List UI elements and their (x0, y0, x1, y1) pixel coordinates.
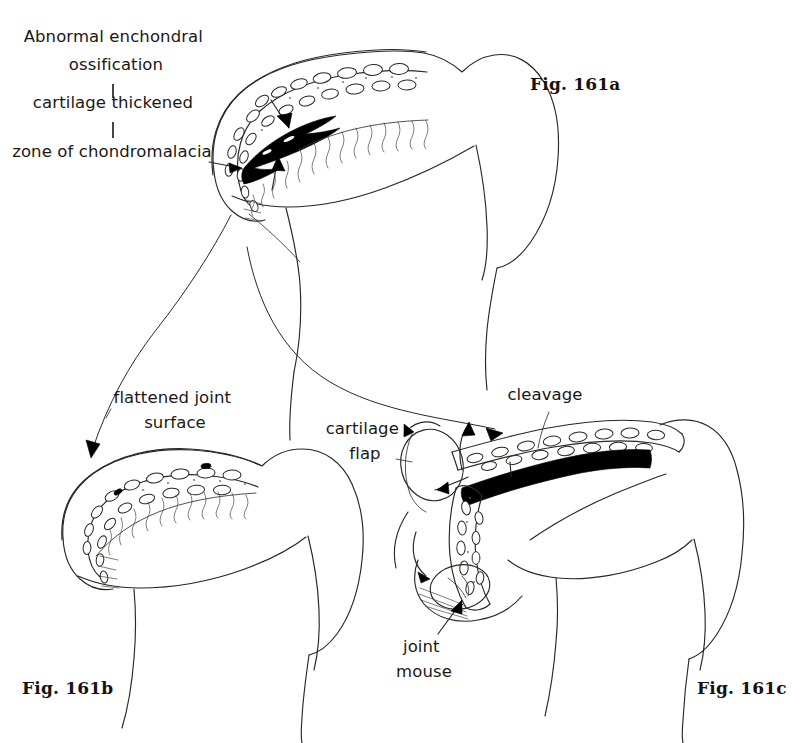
annotation-line: cleavage (507, 385, 582, 404)
illustration-canvas: Abnormal enchondral ossification cartila… (0, 0, 811, 743)
annotation-line: cartilage (326, 419, 399, 438)
annotation-line: surface (144, 413, 206, 432)
fig-caption-161a: Fig. 161a (530, 74, 621, 94)
annotation-line: flattened joint (114, 388, 232, 407)
figure-svg: Abnormal enchondral ossification cartila… (0, 0, 811, 743)
degenerate-lacuna-161b (201, 463, 211, 469)
fig-caption-161c: Fig. 161c (697, 678, 787, 698)
annotation-line: joint (402, 637, 440, 656)
annotation-line: cartilage thickened (33, 93, 193, 112)
annotation-line: Abnormal enchondral (24, 27, 203, 46)
annotation-line: flap (349, 444, 380, 463)
annotation-cleavage: cleavage (507, 385, 582, 404)
annotation-line: mouse (396, 662, 452, 681)
annotation-cartilage-thickened: cartilage thickened (33, 93, 193, 112)
fig-caption-161b: Fig. 161b (22, 678, 113, 698)
annotation-line: ossification (69, 55, 163, 74)
annotation-zone-of-chondromalacia: zone of chondromalacia (12, 142, 212, 161)
annotation-line: zone of chondromalacia (12, 142, 212, 161)
